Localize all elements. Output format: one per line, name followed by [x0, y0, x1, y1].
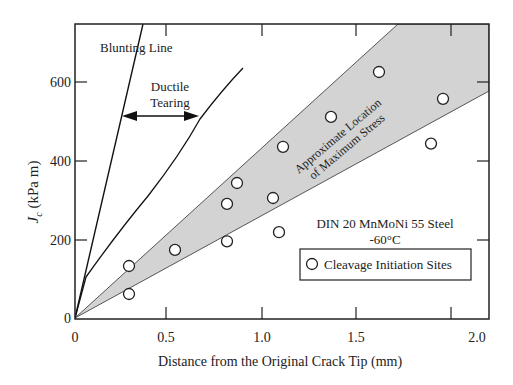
ductile-tearing-arrow — [122, 111, 199, 121]
data-point — [426, 138, 437, 149]
data-point — [268, 193, 279, 204]
temperature-label: -60°C — [369, 232, 400, 247]
x-tick-label: 1.5 — [347, 330, 365, 345]
data-point — [438, 93, 449, 104]
x-tick-label: 1.0 — [253, 330, 271, 345]
data-point — [222, 198, 233, 209]
legend: Cleavage Initiation Sites — [300, 249, 471, 280]
x-tick-label: 0.5 — [157, 330, 175, 345]
ductile-tearing-label: Tearing — [150, 95, 190, 110]
legend-entry: Cleavage Initiation Sites — [324, 257, 452, 272]
y-tick-label: 400 — [50, 154, 71, 169]
y-tick-label: 600 — [50, 75, 71, 90]
open-circle-marker-icon — [307, 259, 318, 270]
x-tick-label: 2.0 — [468, 330, 486, 345]
x-axis-label: Distance from the Original Crack Tip (mm… — [158, 354, 403, 370]
data-point — [274, 227, 285, 238]
data-point — [278, 141, 289, 152]
ductile-tearing-label: Ductile — [151, 79, 189, 94]
data-point — [232, 178, 243, 189]
data-point — [124, 261, 135, 272]
y-tick-label: 0 — [64, 311, 71, 326]
x-tick-label: 0 — [72, 330, 79, 345]
data-point — [222, 236, 233, 247]
blunting-line-label: Blunting Line — [100, 40, 173, 55]
chart: 0 0.5 1.0 1.5 2.0 0 200 400 600 Distance… — [0, 0, 513, 385]
y-axis-label: Jc (kPa m) — [25, 161, 44, 224]
data-point — [124, 289, 135, 300]
y-tick-label: 200 — [50, 233, 71, 248]
data-point — [170, 244, 181, 255]
material-label: DIN 20 MnMoNi 55 Steel — [316, 216, 454, 231]
data-point — [374, 67, 385, 78]
data-point — [326, 111, 337, 122]
